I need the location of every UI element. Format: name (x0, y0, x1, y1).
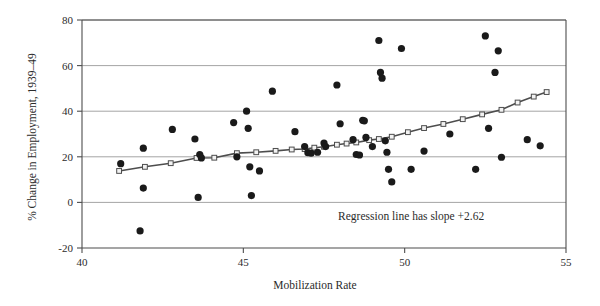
scatter-point (482, 32, 489, 39)
x-axis-title: Mobilization Rate (273, 279, 356, 291)
scatter-point (361, 117, 368, 124)
regression-marker (344, 141, 349, 146)
y-tick-label: 40 (62, 105, 74, 117)
scatter-point (191, 135, 198, 142)
y-tick-label: -20 (58, 242, 73, 254)
scatter-point (362, 134, 369, 141)
scatter-point (472, 166, 479, 173)
scatter-point (169, 126, 176, 133)
regression-marker (544, 90, 549, 95)
scatter-point (136, 227, 143, 234)
regression-marker (376, 137, 381, 142)
scatter-point (233, 153, 240, 160)
scatter-point (117, 160, 124, 167)
scatter-point (498, 154, 505, 161)
regression-marker (273, 148, 278, 153)
scatter-point (375, 37, 382, 44)
regression-marker (499, 107, 504, 112)
regression-marker (389, 134, 394, 139)
scatter-point (243, 108, 250, 115)
regression-marker (405, 130, 410, 135)
regression-marker (143, 164, 148, 169)
scatter-point (322, 143, 329, 150)
y-tick-label: 0 (68, 196, 74, 208)
scatter-point (256, 167, 263, 174)
scatter-point (198, 154, 205, 161)
scatter-point (491, 69, 498, 76)
scatter-point (378, 75, 385, 82)
scatter-point (314, 149, 321, 156)
scatter-point (495, 47, 502, 54)
regression-marker (515, 100, 520, 105)
scatter-point (246, 163, 253, 170)
scatter-point (245, 125, 252, 132)
y-tick-label: 20 (62, 151, 74, 163)
x-tick-label: 40 (77, 256, 89, 268)
y-axis-title: % Change in Employment, 1939–49 (26, 53, 39, 221)
scatter-point (337, 120, 344, 127)
scatter-point (349, 136, 356, 143)
scatter-point (382, 137, 389, 144)
scatter-point (230, 119, 237, 126)
regression-marker (531, 94, 536, 99)
x-tick-label: 50 (399, 256, 411, 268)
regression-marker (254, 150, 259, 155)
regression-marker (422, 126, 427, 131)
y-tick-label: 80 (62, 14, 74, 26)
scatter-point (537, 142, 544, 149)
scatter-point (485, 125, 492, 132)
scatter-point (140, 184, 147, 191)
scatter-point (446, 130, 453, 137)
scatter-point (408, 166, 415, 173)
regression-marker (460, 117, 465, 122)
chart-background (0, 0, 600, 306)
scatter-point (140, 145, 147, 152)
scatter-point (383, 149, 390, 156)
x-tick-label: 45 (238, 256, 250, 268)
scatter-point (291, 128, 298, 135)
scatter-point (385, 166, 392, 173)
y-tick-label: 60 (62, 60, 74, 72)
scatter-point (195, 194, 202, 201)
scatter-point (369, 143, 376, 150)
regression-marker (480, 112, 485, 117)
regression-marker (335, 142, 340, 147)
scatter-point (307, 150, 314, 157)
scatter-point (524, 136, 531, 143)
regression-marker (117, 169, 122, 174)
x-tick-label: 55 (561, 256, 573, 268)
regression-marker (212, 155, 217, 160)
regression-marker (441, 122, 446, 127)
scatter-point (420, 148, 427, 155)
scatter-point (398, 45, 405, 52)
chart-figure: 40455055 -20020406080 Regression line ha… (0, 0, 600, 306)
scatter-point (269, 88, 276, 95)
scatter-point (248, 192, 255, 199)
annotation-label: Regression line has slope +2.62 (338, 210, 484, 223)
regression-marker (168, 161, 173, 166)
scatter-point (301, 143, 308, 150)
regression-marker (289, 147, 294, 152)
scatter-point (388, 178, 395, 185)
scatter-point (356, 151, 363, 158)
regression-annotation: Regression line has slope +2.62 (338, 210, 484, 223)
scatter-plot: 40455055 -20020406080 Regression line ha… (0, 0, 600, 306)
scatter-point (333, 81, 340, 88)
